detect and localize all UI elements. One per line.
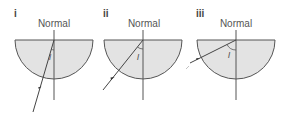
panel-label-ii: ii <box>103 8 109 19</box>
panel-ii-drawing <box>103 30 189 100</box>
panel-iii: iii Normal I <box>0 0 95 114</box>
angle-label-ii: I <box>137 52 140 62</box>
panel-label-iii: iii <box>196 8 204 19</box>
normal-label-ii: Normal <box>128 18 160 29</box>
ray-arrow-icon-ii <box>111 77 115 80</box>
stray-mark <box>186 66 189 69</box>
normal-label-iii: Normal <box>220 18 252 29</box>
angle-label-iii: I <box>228 50 231 60</box>
panel-iii-drawing <box>190 30 275 100</box>
